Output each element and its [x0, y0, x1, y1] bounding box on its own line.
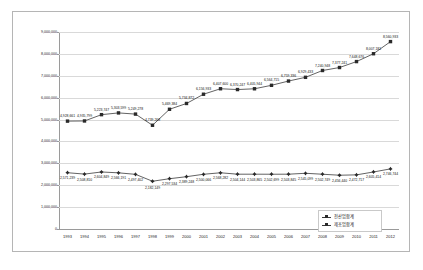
y-axis-tick-label: 8,000,000 — [15, 52, 57, 56]
chart-frame: 01,000,0002,000,0003,000,0004,000,0005,0… — [12, 11, 410, 252]
data-point-label: 2,182,149 — [138, 186, 168, 190]
data-point-label: 2,746,744 — [376, 172, 406, 176]
y-axis-tick-label: 2,000,000 — [15, 183, 57, 187]
data-point-label: 6,156,933 — [189, 87, 219, 91]
y-axis-labels: 01,000,0002,000,0003,000,0004,000,0005,0… — [13, 32, 57, 229]
y-axis-tick-label: 4,000,000 — [15, 139, 57, 143]
data-point-label: 6,405,944 — [240, 82, 270, 86]
data-labels-layer: 4,928,6614,935,7995,223,7475,303,5995,24… — [59, 32, 399, 229]
data-point-label: 5,734,872 — [172, 96, 202, 100]
data-point-label: 6,564,715 — [257, 78, 287, 82]
legend-marker-icon — [322, 222, 331, 228]
data-point-label: 2,497,402 — [121, 178, 151, 182]
y-axis-tick-label: 1,000,000 — [15, 205, 57, 209]
data-point-label: 8,007,181 — [359, 47, 389, 51]
data-point-label: 6,759,336 — [274, 74, 304, 78]
data-point-label: 4,739,268 — [138, 118, 168, 122]
legend-item-series-2[interactable]: 제조업합계 — [322, 221, 378, 229]
legend-item-series-1[interactable]: 전산업합계 — [322, 213, 378, 221]
legend-label-series-1: 전산업합계 — [334, 214, 354, 220]
chart-legend[interactable]: 전산업합계 제조업합계 — [318, 210, 382, 232]
x-axis-labels: 1993199419951996199719981999200020012002… — [59, 234, 399, 244]
y-axis-tick-label: 5,000,000 — [15, 118, 57, 122]
data-point-label: 7,648,676 — [342, 55, 372, 59]
y-axis-tick-label: 3,000,000 — [15, 161, 57, 165]
x-axis-tick-label: 2012 — [380, 234, 402, 239]
data-point-label: 8,560,933 — [376, 35, 406, 39]
data-point-label: 7,377,241 — [325, 61, 355, 65]
y-axis-tick-label: 9,000,000 — [15, 30, 57, 34]
data-point-label: 5,469,384 — [155, 102, 185, 106]
data-point-label: 5,249,278 — [121, 107, 151, 111]
data-point-label: 4,935,799 — [70, 114, 100, 118]
y-axis-tick-label: 7,000,000 — [15, 74, 57, 78]
y-axis-tick-label: 0 — [15, 227, 57, 231]
legend-label-series-2: 제조업합계 — [334, 222, 354, 228]
y-axis-tick-label: 6,000,000 — [15, 96, 57, 100]
data-point-label: 6,929,433 — [291, 70, 321, 74]
legend-marker-icon — [322, 214, 331, 220]
